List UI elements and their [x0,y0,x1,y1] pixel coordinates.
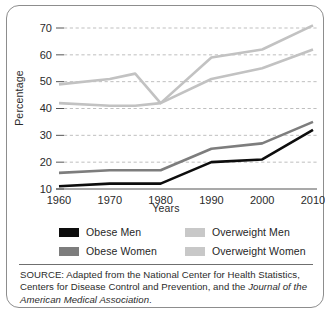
plot-area: 10203040506070 196019701980199020002010 … [7,6,325,218]
source-note: SOURCE: Adapted from the National Center… [20,269,314,306]
legend-swatch-obese-women [59,247,79,256]
source-divider [19,264,313,265]
chart-figure: 10203040506070 196019701980199020002010 … [6,5,324,308]
svg-text:20: 20 [40,156,52,168]
svg-text:10: 10 [40,183,52,195]
source-trailing-text: . [149,294,152,305]
svg-text:70: 70 [40,22,52,34]
legend-item-obese-women: Obese Women [59,242,157,260]
legend-item-overweight-women: Overweight Women [185,242,306,260]
y-tick-marks [56,28,64,189]
svg-text:30: 30 [40,129,52,141]
gridlines [64,28,317,162]
legend-item-overweight-men: Overweight Men [185,223,306,241]
legend-column-left: Obese Men Obese Women [59,223,157,261]
legend-item-obese-men: Obese Men [59,223,157,241]
svg-text:50: 50 [40,75,52,87]
y-axis-title: Percentage [13,53,25,143]
legend-label-overweight-men: Overweight Men [212,226,290,238]
legend-label-obese-men: Obese Men [86,226,141,238]
series-line [59,122,313,173]
legend-swatch-overweight-women [185,247,205,256]
y-tick-labels: 10203040506070 [40,22,52,195]
legend-column-right: Overweight Men Overweight Women [185,223,306,261]
legend-swatch-overweight-men [185,228,205,237]
chart-legend: Obese Men Obese Women Overweight Men Ove… [7,218,325,263]
legend-label-overweight-women: Overweight Women [212,245,306,257]
svg-text:60: 60 [40,49,52,61]
svg-text:40: 40 [40,102,52,114]
legend-swatch-obese-men [59,228,79,237]
line-chart-svg: 10203040506070 196019701980199020002010 [7,6,325,218]
legend-label-obese-women: Obese Women [86,245,157,257]
series-line [59,49,313,105]
x-axis-title: Years [7,202,325,214]
